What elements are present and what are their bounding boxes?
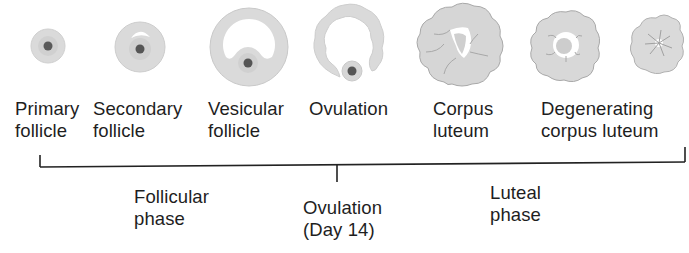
label-line: Degenerating xyxy=(541,98,659,120)
ovulation-illustration xyxy=(314,4,384,81)
vesicular-follicle-illustration xyxy=(210,8,288,86)
degenerating-corpus-luteum-late-illustration xyxy=(630,15,683,74)
label-line: follicle xyxy=(93,120,182,142)
label-line: Secondary xyxy=(93,98,182,120)
label-line: Vesicular xyxy=(208,98,284,120)
label-line: Follicular xyxy=(134,186,209,208)
label-primary-follicle: Primary follicle xyxy=(15,98,79,142)
label-secondary-follicle: Secondary follicle xyxy=(93,98,182,142)
secondary-follicle-illustration xyxy=(115,22,165,72)
label-corpus-luteum: Corpus luteum xyxy=(433,98,493,142)
label-line: Ovulation xyxy=(309,98,388,120)
label-line: luteum xyxy=(433,120,493,142)
label-line: Ovulation xyxy=(303,197,382,219)
label-line: phase xyxy=(134,208,209,230)
label-line: follicle xyxy=(15,120,79,142)
primary-follicle-illustration xyxy=(31,29,65,63)
label-line: Primary xyxy=(15,98,79,120)
label-ovulation: Ovulation xyxy=(309,98,388,120)
label-luteal-phase: Luteal phase xyxy=(490,182,541,226)
label-follicular-phase: Follicular phase xyxy=(134,186,209,230)
label-degenerating-corpus-luteum: Degenerating corpus luteum xyxy=(541,98,659,142)
corpus-luteum-illustration xyxy=(417,3,503,86)
label-line: follicle xyxy=(208,120,284,142)
label-line: Corpus xyxy=(433,98,493,120)
label-ovulation-day: Ovulation (Day 14) xyxy=(303,197,382,241)
timeline-bracket xyxy=(40,147,685,182)
oocyte-nucleus-icon xyxy=(44,42,53,51)
bracket-baseline xyxy=(40,162,685,167)
label-line: (Day 14) xyxy=(303,219,382,241)
label-line: corpus luteum xyxy=(541,120,659,142)
label-vesicular-follicle: Vesicular follicle xyxy=(208,98,284,142)
label-line: phase xyxy=(490,204,541,226)
degenerating-corpus-luteum-illustration xyxy=(531,11,600,82)
label-line: Luteal xyxy=(490,182,541,204)
